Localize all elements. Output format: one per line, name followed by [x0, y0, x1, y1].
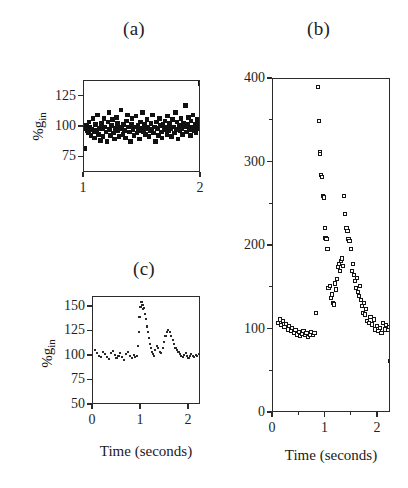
data-point	[157, 347, 159, 349]
data-point	[153, 139, 158, 144]
data-point	[196, 126, 199, 131]
data-point	[114, 354, 116, 356]
data-point	[323, 226, 327, 230]
y-tick	[78, 125, 83, 126]
data-point	[95, 113, 100, 118]
data-point	[164, 335, 166, 337]
y-tick-label: 50	[40, 396, 85, 412]
x-tick-label: 1	[125, 412, 155, 428]
data-point	[172, 339, 174, 341]
data-point	[343, 212, 347, 216]
data-point	[125, 353, 127, 355]
data-point	[330, 292, 334, 296]
data-point	[115, 357, 117, 359]
data-point	[119, 352, 121, 354]
x-tick-label: 2	[185, 180, 215, 196]
data-point	[333, 281, 337, 285]
data-point	[137, 137, 142, 142]
data-point	[108, 358, 110, 360]
data-point	[127, 351, 129, 353]
data-point	[341, 264, 345, 268]
data-point	[146, 325, 148, 327]
data-point	[358, 284, 362, 288]
data-point	[147, 331, 149, 333]
data-point	[187, 357, 189, 359]
x-tick	[139, 404, 140, 409]
y-minor-tick	[269, 370, 272, 371]
data-point	[112, 350, 114, 352]
data-point	[345, 229, 349, 233]
panel-b-plot-area	[272, 78, 390, 412]
data-point	[197, 121, 199, 126]
y-axis-title-text: %g	[30, 121, 46, 141]
data-point	[351, 262, 355, 266]
data-point	[104, 353, 106, 355]
data-point	[316, 85, 320, 89]
data-point	[107, 110, 112, 115]
panel-c-data-points	[93, 297, 199, 403]
x-tick-label: 2	[173, 412, 203, 428]
data-point	[332, 302, 336, 306]
data-point	[334, 287, 338, 291]
data-point	[318, 152, 322, 156]
y-tick	[267, 77, 272, 78]
data-point	[137, 345, 139, 347]
data-point	[182, 356, 184, 358]
data-point	[387, 325, 389, 329]
data-point	[370, 322, 374, 326]
data-point	[123, 359, 125, 361]
data-point	[198, 81, 199, 86]
panel-c-plot-area	[92, 296, 200, 404]
y-tick	[87, 379, 92, 380]
data-point	[140, 301, 142, 303]
y-tick-label: 300	[220, 154, 265, 170]
data-point	[143, 307, 145, 309]
y-tick-label: 150	[40, 298, 85, 314]
data-point	[94, 349, 96, 351]
y-tick	[267, 161, 272, 162]
data-point	[312, 331, 316, 335]
data-point	[154, 349, 156, 351]
x-tick	[324, 412, 325, 417]
y-minor-tick	[269, 286, 272, 287]
data-point	[138, 331, 140, 333]
data-point	[117, 355, 119, 357]
panel-c-label: (c)	[133, 258, 155, 280]
x-tick	[82, 172, 83, 177]
x-minor-tick	[298, 412, 299, 415]
x-tick	[271, 412, 272, 417]
data-point	[119, 108, 124, 113]
data-point	[320, 175, 324, 179]
data-point	[136, 355, 138, 357]
x-tick-label: 0	[257, 420, 287, 436]
data-point	[349, 247, 353, 251]
y-minor-tick	[269, 203, 272, 204]
data-point	[105, 139, 110, 144]
y-tick	[267, 244, 272, 245]
y-tick	[267, 328, 272, 329]
panel-a-plot-area	[83, 80, 200, 172]
data-point	[160, 352, 162, 354]
figure-container: (a) (b) (c) 75100125 12 %gin 01002003004…	[0, 0, 408, 488]
data-point	[128, 139, 133, 144]
y-tick	[87, 305, 92, 306]
data-point	[183, 103, 188, 108]
data-point	[189, 355, 191, 357]
y-tick	[87, 330, 92, 331]
panel-b-data-points	[273, 79, 389, 411]
data-point	[176, 137, 181, 142]
data-point	[362, 301, 366, 305]
data-point	[188, 133, 193, 138]
x-minor-tick	[350, 412, 351, 415]
data-point	[198, 353, 200, 355]
x-tick-label: 2	[362, 420, 392, 436]
data-point	[138, 316, 140, 318]
data-point	[194, 131, 199, 136]
data-point	[335, 277, 339, 281]
x-tick	[91, 404, 92, 409]
data-point	[322, 195, 326, 199]
panel-c-x-axis-title: Time (seconds)	[86, 443, 206, 460]
y-tick	[78, 156, 83, 157]
data-point	[157, 116, 162, 121]
data-point	[342, 194, 346, 198]
